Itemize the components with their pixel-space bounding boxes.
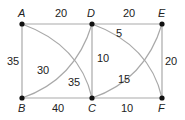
node-label-A: A <box>17 7 25 19</box>
weight-D-C: 10 <box>97 52 109 64</box>
weight-A-B: 35 <box>7 55 19 67</box>
weight-B-C: 40 <box>52 102 64 114</box>
node-label-D: D <box>87 7 95 19</box>
weight-C-E: 15 <box>118 73 130 85</box>
node-C <box>89 95 94 100</box>
edge-A-C <box>22 24 92 98</box>
node-label-C: C <box>88 102 96 114</box>
node-label-B: B <box>18 102 25 114</box>
weight-D-E: 20 <box>123 7 135 19</box>
edge-B-D <box>22 24 92 98</box>
weight-C-F: 10 <box>121 102 133 114</box>
weight-D-F: 5 <box>116 27 122 39</box>
node-D <box>89 21 94 26</box>
weight-A-C: 35 <box>68 76 80 88</box>
node-B <box>19 95 24 100</box>
node-label-E: E <box>158 7 166 19</box>
node-F <box>159 95 164 100</box>
node-E <box>159 21 164 26</box>
node-A <box>19 21 24 26</box>
node-label-F: F <box>158 102 166 114</box>
weighted-graph-diagram: A D E B C F 20 20 35 40 10 10 20 35 30 5… <box>0 0 185 120</box>
weight-E-F: 20 <box>165 55 177 67</box>
weight-B-D: 30 <box>37 64 49 76</box>
weight-A-D: 20 <box>55 7 67 19</box>
